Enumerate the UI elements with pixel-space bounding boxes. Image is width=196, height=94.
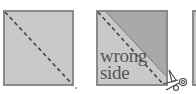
dashed-diagonal-line-1 <box>5 12 72 84</box>
diagram-overlay <box>0 0 196 94</box>
scissors-icon <box>163 70 187 91</box>
wrong-side-label-line2: side <box>100 64 129 81</box>
dot-mark <box>75 87 77 89</box>
